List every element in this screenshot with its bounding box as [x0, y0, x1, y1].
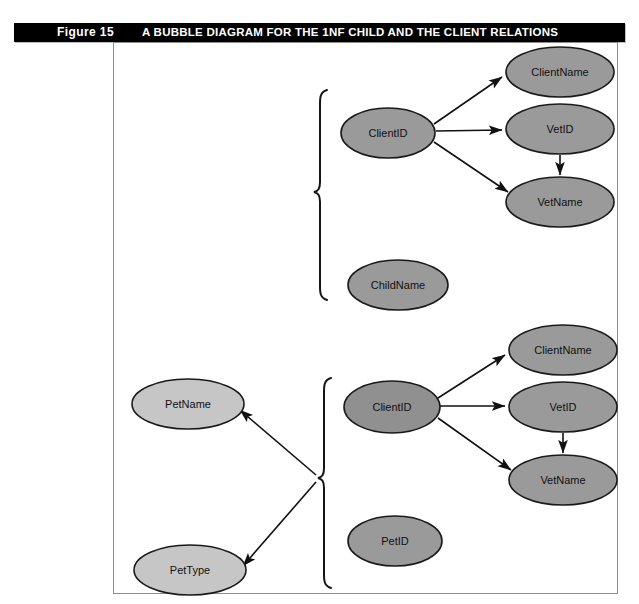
bubble-clientid-bottom[interactable]: ClientID — [344, 381, 440, 433]
bubble-label: PetName — [165, 398, 211, 410]
bubble-clientname-top[interactable]: ClientName — [506, 47, 614, 97]
bubble-clientid-top[interactable]: ClientID — [341, 108, 435, 158]
bubble-label: VetID — [547, 123, 574, 135]
bubble-vetid-top[interactable]: VetID — [506, 104, 614, 154]
figure-page: Figure 15 A BUBBLE DIAGRAM FOR THE 1NF C… — [0, 0, 639, 604]
bubble-label: PetType — [170, 564, 210, 576]
arrow-clientid-to-vetname-bottom — [438, 418, 511, 470]
brace-child-relation — [314, 90, 327, 300]
bubble-label: ClientName — [531, 66, 588, 78]
arrow-clientid-to-vetname — [434, 142, 508, 192]
bubble-label: VetName — [540, 474, 585, 486]
bubble-label: VetID — [550, 401, 577, 413]
bubble-label: PetID — [381, 535, 409, 547]
bubble-clientname-bottom[interactable]: ClientName — [509, 325, 617, 375]
brace-pet-relation — [318, 378, 331, 588]
bubble-vetname-bottom[interactable]: VetName — [509, 455, 617, 505]
bubble-label: ClientName — [534, 344, 591, 356]
arrow-clientid-to-vetid — [436, 130, 502, 131]
group-pet-relation: ClientID ClientName VetID VetName PetID — [132, 325, 617, 595]
arrow-brace-to-pettype — [243, 482, 316, 566]
bubble-label: ClientID — [368, 127, 407, 139]
bubble-label: ClientID — [372, 401, 411, 413]
group-child-relation: ClientID ClientName VetID VetName ChildN… — [314, 47, 614, 310]
bubble-diagram: ClientID ClientName VetID VetName ChildN… — [0, 0, 639, 604]
bubble-label: ChildName — [371, 279, 425, 291]
arrow-clientid-to-clientname-bottom — [438, 355, 505, 398]
bubble-childname[interactable]: ChildName — [348, 260, 448, 310]
bubble-petname[interactable]: PetName — [132, 379, 244, 429]
bubble-vetname-top[interactable]: VetName — [506, 177, 614, 227]
bubble-pettype[interactable]: PetType — [134, 545, 246, 595]
arrow-brace-to-petname — [240, 410, 316, 475]
bubble-label: VetName — [537, 196, 582, 208]
bubble-petid[interactable]: PetID — [348, 516, 442, 566]
arrow-clientid-to-clientname — [434, 77, 502, 124]
bubble-vetid-bottom[interactable]: VetID — [509, 382, 617, 432]
